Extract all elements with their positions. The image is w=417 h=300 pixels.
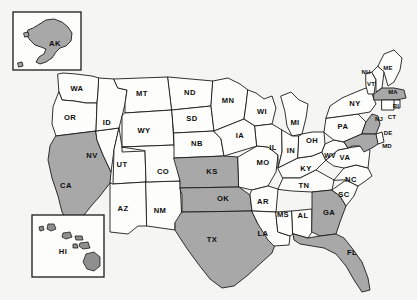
state-label-ok: OK	[217, 194, 229, 203]
state-label-hi: HI	[59, 247, 67, 256]
state-label-in: IN	[287, 146, 295, 155]
us-map-svg: WAORCANVIDMTWYUTAZNMCONDSDNBKSOKTXMNIAMO…	[0, 0, 417, 300]
state-label-al: AL	[298, 211, 309, 220]
state-label-sd: SD	[186, 114, 197, 123]
state-label-ri: RI	[393, 103, 400, 109]
state-label-ma: MA	[388, 89, 398, 95]
state-label-ut: UT	[117, 160, 128, 169]
state-label-ct: CT	[388, 114, 397, 120]
state-label-co: CO	[157, 167, 169, 176]
state-mi[interactable]	[281, 92, 308, 136]
state-label-ak: AK	[49, 39, 61, 48]
alaska-aleutian-1	[24, 32, 29, 37]
alaska-inset[interactable]	[13, 12, 81, 70]
state-label-oh: OH	[306, 136, 318, 145]
state-label-id: ID	[103, 118, 112, 127]
state-mo[interactable]	[238, 146, 278, 190]
state-label-fl: FL	[347, 248, 357, 257]
us-map-container: WAORCANVIDMTWYUTAZNMCONDSDNBKSOKTXMNIAMO…	[0, 0, 417, 300]
state-az[interactable]	[110, 182, 147, 234]
state-label-md: MD	[382, 143, 392, 149]
hawaii-island-kauai	[47, 224, 56, 231]
state-label-vt: VT	[367, 81, 375, 87]
state-label-mo: MO	[256, 158, 269, 167]
state-label-wy: WY	[137, 126, 150, 135]
state-label-ky: KY	[300, 164, 311, 173]
state-label-ga: GA	[323, 208, 335, 217]
state-label-az: AZ	[118, 204, 129, 213]
state-label-nd: ND	[184, 88, 196, 97]
state-label-tn: TN	[299, 181, 310, 190]
hawaii-island-niihau	[39, 226, 44, 231]
state-label-ks: KS	[206, 167, 217, 176]
state-label-ms: MS	[277, 210, 289, 219]
state-label-mt: MT	[136, 89, 148, 98]
state-label-nh: NH	[361, 69, 370, 75]
state-label-or: OR	[64, 113, 76, 122]
state-label-mi: MI	[290, 118, 299, 127]
state-label-wa: WA	[70, 84, 83, 93]
state-label-la: LA	[258, 229, 269, 238]
state-fl[interactable]	[293, 234, 370, 292]
state-label-sc: SC	[338, 190, 349, 199]
state-label-ia: IA	[236, 131, 245, 140]
state-label-wi: WI	[257, 107, 267, 116]
state-label-il: IL	[269, 143, 277, 152]
state-label-ca: CA	[60, 181, 72, 190]
hawaii-inset[interactable]	[32, 215, 104, 277]
state-label-mn: MN	[222, 96, 235, 105]
alaska-aleutian-2	[18, 62, 23, 67]
state-label-nc: NC	[345, 175, 357, 184]
state-label-pa: PA	[338, 122, 349, 131]
hawaii-island-lanai	[73, 244, 78, 248]
state-label-tx: TX	[207, 235, 218, 244]
state-label-va: VA	[340, 153, 351, 162]
state-label-de: DE	[384, 130, 393, 136]
state-label-wv: WV	[324, 152, 336, 159]
state-label-nm: NM	[154, 206, 167, 215]
state-label-nv: NV	[86, 151, 98, 160]
state-label-ar: AR	[257, 197, 269, 206]
state-label-nb: NB	[191, 139, 203, 148]
state-label-me: ME	[383, 65, 392, 71]
hawaii-island-molokai	[75, 236, 83, 240]
state-label-nj: NJ	[375, 116, 383, 122]
state-label-ny: NY	[349, 99, 360, 108]
